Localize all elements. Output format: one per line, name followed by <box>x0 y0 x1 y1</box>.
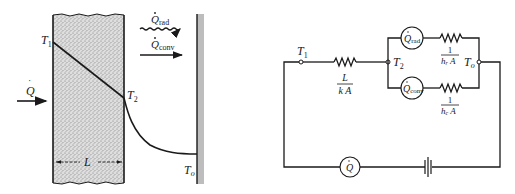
q-source-dot <box>348 160 349 161</box>
to-label: To <box>184 163 195 178</box>
conduction-resistance-denominator: k A <box>339 85 353 96</box>
convection-resistor <box>440 84 462 92</box>
conduction-resistor <box>334 58 356 66</box>
length-label: L <box>83 155 91 169</box>
convection-resistance-numerator: 1 <box>448 95 453 105</box>
q-rad-dot <box>154 12 156 14</box>
node-t2-label: T2 <box>393 55 404 71</box>
t1-label: T1 <box>41 33 52 49</box>
surrounding-wall-shade <box>197 14 204 184</box>
q-rad-source-dot <box>407 31 408 32</box>
q-source-label: Q <box>346 162 354 173</box>
q-rad-label: Qrad <box>151 13 169 27</box>
circuit-wire-left <box>284 62 341 167</box>
node-to <box>477 60 481 64</box>
q-conv-label: Qconv <box>151 38 175 52</box>
t2-label: T2 <box>127 88 138 104</box>
conduction-resistance-numerator: L <box>341 72 348 83</box>
battery-icon <box>425 157 431 177</box>
radiation-resistance-numerator: 1 <box>448 45 453 55</box>
radiation-arrow <box>140 28 180 30</box>
heat-input-dot: ˙ <box>28 78 31 89</box>
temperature-decay-curve <box>124 98 197 154</box>
radiation-resistor <box>440 34 462 42</box>
node-t1 <box>299 60 303 64</box>
thermal-circuit: T1 L k A T2 Qrad 1 hr A <box>284 27 500 177</box>
convection-resistance-denominator: hc A <box>441 106 456 116</box>
q-conv-source-dot <box>406 81 407 82</box>
node-to-label: To <box>464 55 475 70</box>
node-t1-label: T1 <box>297 44 308 60</box>
q-conv-dot <box>154 37 156 39</box>
diagram-canvas: Q ˙ T1 T2 To L Qrad Qconv <box>0 0 515 194</box>
wall-figure: Q ˙ T1 T2 To L Qrad Qconv <box>17 12 204 184</box>
radiation-resistance-denominator: hr A <box>441 56 456 66</box>
